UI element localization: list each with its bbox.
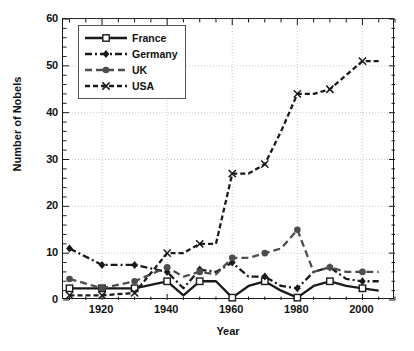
data-point-marker bbox=[326, 86, 333, 93]
data-point-marker bbox=[131, 278, 138, 285]
legend-label: UK bbox=[132, 64, 147, 76]
data-point-marker bbox=[196, 269, 203, 276]
y-tick-label: 20 bbox=[30, 199, 58, 211]
data-point-marker bbox=[164, 278, 170, 284]
marker-filled-diamond bbox=[99, 261, 106, 269]
data-point-marker bbox=[294, 284, 301, 292]
y-tick-label: 40 bbox=[30, 106, 58, 118]
data-point-marker bbox=[229, 294, 235, 300]
marker-open-square bbox=[197, 278, 203, 284]
y-tick-label: 10 bbox=[30, 246, 58, 258]
series-france bbox=[66, 278, 378, 301]
y-axis-title: Number of Nobels bbox=[11, 59, 23, 189]
data-point-marker bbox=[66, 285, 72, 291]
chart-legend: FranceGermanyUKUSA bbox=[78, 25, 186, 99]
data-point-marker bbox=[294, 226, 301, 233]
legend-label: Germany bbox=[132, 48, 178, 60]
data-point-marker bbox=[66, 244, 73, 252]
x-tick-label: 1980 bbox=[271, 303, 321, 315]
data-point-marker bbox=[294, 294, 300, 300]
x-tick-label: 2000 bbox=[336, 303, 386, 315]
data-point-marker bbox=[359, 269, 366, 276]
data-point-marker bbox=[261, 161, 268, 168]
marker-filled-circle bbox=[359, 269, 366, 276]
marker-filled-circle bbox=[262, 250, 269, 257]
legend-swatch-germany bbox=[84, 47, 128, 61]
x-tick-label: 1920 bbox=[76, 303, 126, 315]
legend-label: France bbox=[132, 32, 166, 44]
legend-label: USA bbox=[132, 80, 154, 92]
marker-filled-circle bbox=[164, 264, 171, 271]
marker-open-square bbox=[294, 294, 300, 300]
nobel-prizes-line-chart: Number of Nobels 0102030405060 FranceGer… bbox=[0, 0, 414, 351]
data-point-marker bbox=[229, 255, 236, 262]
marker-filled-circle bbox=[66, 276, 73, 283]
legend-swatch-france bbox=[84, 31, 128, 45]
x-axis-tick-labels: 19201940196019802000 bbox=[62, 303, 394, 321]
data-point-marker bbox=[359, 285, 365, 291]
marker-filled-diamond bbox=[66, 244, 73, 252]
marker-filled-circle bbox=[103, 67, 110, 74]
legend-swatch-uk bbox=[84, 63, 128, 77]
marker-filled-diamond bbox=[294, 284, 301, 292]
marker-filled-circle bbox=[131, 278, 138, 285]
marker-open-square bbox=[359, 285, 365, 291]
legend-swatch-usa bbox=[84, 79, 128, 93]
data-point-marker bbox=[327, 264, 334, 271]
marker-open-square bbox=[66, 285, 72, 291]
data-point-marker bbox=[327, 278, 333, 284]
legend-item-uk[interactable]: UK bbox=[84, 62, 178, 78]
legend-item-usa[interactable]: USA bbox=[84, 78, 178, 94]
data-point-marker bbox=[103, 67, 110, 74]
marker-filled-diamond bbox=[359, 277, 366, 285]
data-point-marker bbox=[103, 35, 109, 41]
legend-item-germany[interactable]: Germany bbox=[84, 46, 178, 62]
data-point-marker bbox=[66, 276, 73, 283]
legend-item-france[interactable]: France bbox=[84, 30, 178, 46]
x-tick-label: 1960 bbox=[206, 303, 256, 315]
marker-filled-circle bbox=[294, 226, 301, 233]
marker-filled-circle bbox=[99, 285, 106, 292]
marker-x-cross bbox=[326, 86, 333, 93]
y-tick-label: 60 bbox=[30, 12, 58, 24]
marker-filled-circle bbox=[327, 264, 334, 271]
data-point-marker bbox=[164, 264, 171, 271]
data-point-marker bbox=[131, 261, 138, 269]
x-axis-title: Year bbox=[62, 325, 394, 337]
data-point-marker bbox=[99, 261, 106, 269]
y-tick-label: 50 bbox=[30, 59, 58, 71]
marker-filled-circle bbox=[196, 269, 203, 276]
marker-open-square bbox=[229, 294, 235, 300]
data-point-marker bbox=[99, 285, 106, 292]
y-tick-label: 30 bbox=[30, 153, 58, 165]
marker-open-square bbox=[103, 35, 109, 41]
marker-x-cross bbox=[261, 161, 268, 168]
marker-filled-diamond bbox=[103, 50, 110, 58]
marker-open-square bbox=[164, 278, 170, 284]
data-point-marker bbox=[103, 50, 110, 58]
data-point-marker bbox=[262, 250, 269, 257]
x-tick-label: 1940 bbox=[141, 303, 191, 315]
marker-filled-circle bbox=[229, 255, 236, 262]
marker-open-square bbox=[327, 278, 333, 284]
data-point-marker bbox=[359, 277, 366, 285]
y-axis-tick-labels: 0102030405060 bbox=[28, 18, 58, 299]
data-point-marker bbox=[197, 278, 203, 284]
marker-filled-diamond bbox=[131, 261, 138, 269]
y-tick-label: 0 bbox=[30, 293, 58, 305]
